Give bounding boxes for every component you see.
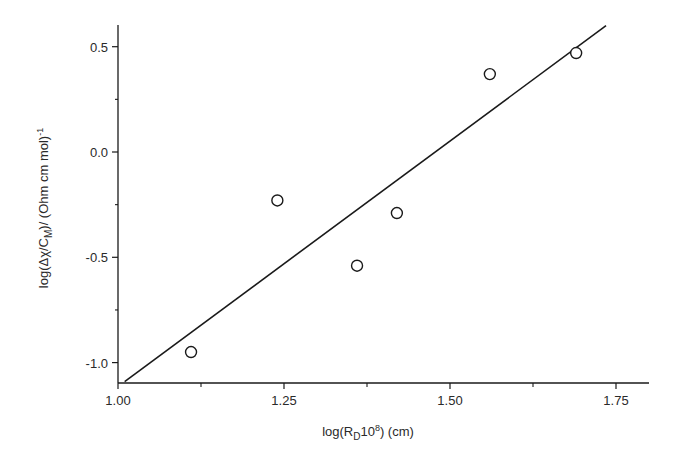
y-tick-label: 0.0 (90, 145, 108, 160)
data-point-circle (391, 208, 402, 219)
axes (118, 25, 649, 383)
data-point-circle (484, 69, 495, 80)
data-point-circle (352, 260, 363, 271)
x-tick-label: 1.25 (271, 393, 296, 408)
data-points (186, 48, 582, 358)
scatter-chart: 0.50.0-0.5-1.0 1.001.251.501.75 log(RD10… (0, 0, 684, 465)
y-axis-label: log(Δχ/CM)/ (Ohm cm mol)-1 (35, 128, 54, 288)
y-axis-ticks: 0.50.0-0.5-1.0 (86, 40, 118, 371)
fit-line (125, 26, 606, 382)
x-axis-ticks: 1.001.251.501.75 (105, 383, 628, 408)
y-tick-label: -0.5 (86, 250, 108, 265)
data-point-circle (186, 347, 197, 358)
x-tick-label: 1.00 (105, 393, 130, 408)
x-tick-label: 1.75 (603, 393, 628, 408)
x-tick-label: 1.50 (437, 393, 462, 408)
x-axis-label: log(RD108) (cm) (322, 423, 414, 442)
data-point-circle (272, 195, 283, 206)
y-tick-label: -1.0 (86, 356, 108, 371)
linear-fit-line (125, 26, 606, 382)
data-point-circle (571, 48, 582, 59)
y-tick-label: 0.5 (90, 40, 108, 55)
